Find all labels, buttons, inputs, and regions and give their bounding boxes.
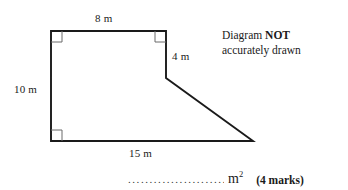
not-accurately-drawn-note: Diagram NOT accurately drawn — [222, 28, 342, 58]
note-line2: accurately drawn — [222, 44, 301, 56]
dimension-label-right: 4 m — [172, 51, 189, 62]
right-angle-mark-top-right — [155, 31, 166, 42]
dimension-label-bottom: 15 m — [129, 148, 152, 159]
answer-unit-exponent: 2 — [239, 169, 243, 179]
answer-unit: m2 — [228, 171, 243, 187]
marks-label: (4 marks) — [256, 174, 304, 186]
right-angle-mark-bottom-left — [51, 130, 62, 141]
answer-unit-base: m — [228, 171, 239, 186]
right-angle-mark-top-left — [51, 31, 62, 42]
answer-row: ........................... m2 (4 marks) — [128, 166, 344, 186]
note-line1-prefix: Diagram — [222, 29, 265, 41]
question-figure: 8 m 10 m 4 m 15 m Diagram NOT accurately… — [0, 0, 348, 190]
note-line1-emphasis: NOT — [265, 29, 290, 41]
dimension-label-top: 8 m — [95, 13, 112, 24]
answer-dotted-line[interactable]: ........................... — [128, 173, 224, 185]
dimension-label-left: 10 m — [14, 84, 37, 95]
